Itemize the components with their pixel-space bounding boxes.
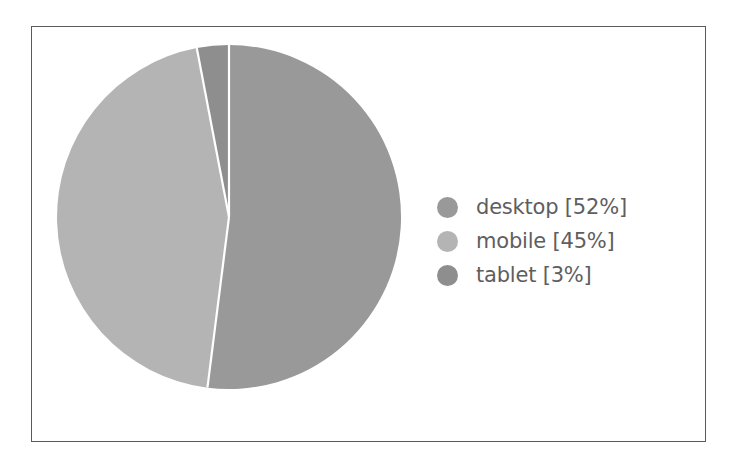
legend-swatch-tablet [437, 265, 458, 286]
legend-label-mobile: mobile [45%] [476, 231, 615, 252]
legend-swatch-desktop [437, 197, 458, 218]
pie-slice-mobile[interactable] [57, 48, 229, 388]
pie-svg [55, 43, 403, 391]
screenshot-root: desktop [52%] mobile [45%] tablet [3%] [0, 0, 734, 461]
legend-item-desktop[interactable]: desktop [52%] [437, 190, 687, 224]
legend: desktop [52%] mobile [45%] tablet [3%] [437, 190, 687, 292]
pie-slice-desktop[interactable] [207, 45, 401, 389]
chart-frame: desktop [52%] mobile [45%] tablet [3%] [31, 26, 706, 442]
legend-label-desktop: desktop [52%] [476, 197, 627, 218]
legend-item-tablet[interactable]: tablet [3%] [437, 258, 687, 292]
legend-item-mobile[interactable]: mobile [45%] [437, 224, 687, 258]
legend-label-tablet: tablet [3%] [476, 265, 592, 286]
legend-swatch-mobile [437, 231, 458, 252]
pie-chart [55, 43, 403, 391]
